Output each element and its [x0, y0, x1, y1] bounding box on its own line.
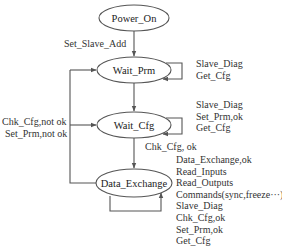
state-label-data-exchange: Data_Exchange — [101, 178, 167, 189]
loop-label-line: Read_Outputs — [176, 177, 282, 189]
self-loop-label-wait-prm: Slave_Diag Get_Cfg — [196, 58, 243, 81]
return-line-bus — [70, 70, 96, 183]
loop-label-line: Get_Cfg — [176, 235, 282, 247]
return-label-line: Chk_Cfg,not ok — [2, 116, 67, 128]
loop-label-line: Slave_Diag — [196, 58, 243, 70]
state-label-power-on: Power_On — [112, 13, 157, 24]
self-loop-label-data-exchange: Data_Exchange,ok Read_Inputs Read_Output… — [176, 154, 282, 247]
loop-label-line: Get_Cfg — [196, 70, 243, 82]
state-label-wait-cfg: Wait_Cfg — [114, 120, 155, 131]
state-label-wait-prm: Wait_Prm — [113, 65, 155, 76]
loop-label-line: Get_Cfg — [196, 122, 243, 134]
loop-label-line: Data_Exchange,ok — [176, 154, 282, 166]
transition-label-set-slave-add: Set_Slave_Add — [64, 38, 126, 50]
loop-label-line: Set_Prm,ok — [176, 224, 282, 236]
loop-label-line: Read_Inputs — [176, 166, 282, 178]
loop-label-line: Slave_Diag — [176, 200, 282, 212]
self-loop-label-wait-cfg: Slave_Diag Set_Prm,ok Get_Cfg — [196, 99, 243, 134]
loop-label-line: Slave_Diag — [196, 99, 243, 111]
transition-label-return: Chk_Cfg,not ok Set_Prm,not ok — [2, 116, 67, 139]
return-label-line: Set_Prm,not ok — [2, 128, 67, 140]
loop-label-line: Set_Prm,ok — [196, 111, 243, 123]
transition-label-chk-cfg-ok: Chk_Cfg, ok — [145, 141, 197, 153]
loop-label-line: Commands(sync,freeze···) — [176, 189, 282, 201]
loop-label-line: Chk_Cfg,ok — [176, 212, 282, 224]
